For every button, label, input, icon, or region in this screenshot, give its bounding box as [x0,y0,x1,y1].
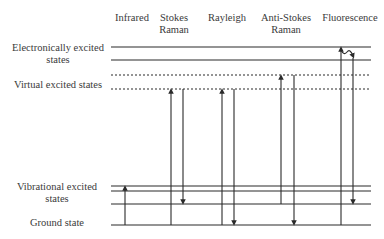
energy-diagram [0,0,384,239]
fluorescence-relaxation-wave [341,50,353,56]
